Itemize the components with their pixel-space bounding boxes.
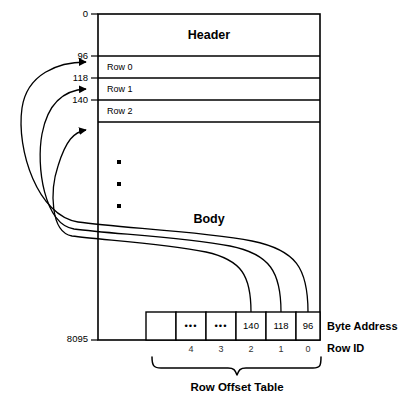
row-offset-table-caption: Row Offset Table bbox=[137, 381, 337, 393]
body-section-label: Body bbox=[98, 212, 320, 226]
ellipsis-dot-2 bbox=[117, 182, 121, 186]
offset-cell-empty bbox=[146, 312, 176, 340]
byte-offset-label-0: 0 bbox=[48, 8, 88, 19]
byte-offset-label-96: 96 bbox=[48, 50, 88, 61]
header-section-label: Header bbox=[98, 28, 320, 42]
row-slot-label-2: Row 2 bbox=[107, 106, 133, 116]
byte-offset-label-140: 140 bbox=[48, 94, 88, 105]
byte-offset-label-118: 118 bbox=[48, 72, 88, 83]
offset-cell-value-3: ••• bbox=[206, 321, 236, 331]
row-id-caption: Row ID bbox=[327, 342, 364, 354]
row-id-label-0: 0 bbox=[296, 344, 320, 354]
row-id-label-1: 1 bbox=[266, 344, 296, 354]
offset-cell-value-2: 140 bbox=[236, 321, 266, 331]
ellipsis-dot-3 bbox=[117, 204, 121, 208]
row-id-label-2: 2 bbox=[236, 344, 266, 354]
byte-offset-label-8095: 8095 bbox=[48, 333, 88, 344]
row-offset-table-brace bbox=[152, 357, 321, 375]
offset-cell-value-0: 96 bbox=[296, 321, 320, 331]
offset-cell-value-1: 118 bbox=[266, 321, 296, 331]
row-id-label-4: 4 bbox=[176, 344, 206, 354]
row-slot-label-0: Row 0 bbox=[107, 62, 133, 72]
ellipsis-dot-1 bbox=[117, 160, 121, 164]
offset-cell-value-4: ••• bbox=[176, 321, 206, 331]
row-slot-label-1: Row 1 bbox=[107, 84, 133, 94]
row-id-label-3: 3 bbox=[206, 344, 236, 354]
diagram-canvas: 0 96 118 140 8095 Header Body Row 0 Row … bbox=[0, 0, 420, 414]
byte-address-caption: Byte Address bbox=[327, 320, 398, 332]
